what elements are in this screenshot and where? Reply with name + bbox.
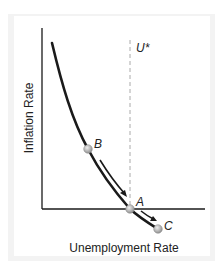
point-b-marker — [84, 145, 93, 154]
point-a-label: A — [135, 195, 144, 209]
arrowhead-b-to-a-icon — [120, 190, 127, 197]
phillips-curve-chart: B A C U* Unemployment Rate Inflation Rat… — [0, 0, 223, 269]
point-c-marker — [154, 225, 163, 234]
point-b-label: B — [94, 137, 102, 151]
point-a-marker — [126, 205, 135, 214]
point-c-label: C — [164, 219, 173, 233]
x-axis-title: Unemployment Rate — [69, 241, 179, 255]
u-star-label: U* — [136, 41, 150, 55]
y-axis-title: Inflation Rate — [22, 82, 36, 153]
